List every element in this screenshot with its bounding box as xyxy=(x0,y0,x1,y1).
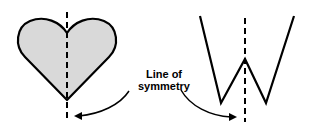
arrow-to-heart-line xyxy=(79,91,129,116)
label-line-2: symmetry xyxy=(134,80,194,92)
w-shape xyxy=(200,16,294,103)
arrowhead-left xyxy=(74,112,82,120)
diagram-graphics xyxy=(0,0,309,129)
arrowhead-right xyxy=(229,113,237,121)
symmetry-diagram: Line of symmetry xyxy=(0,0,309,129)
arrow-to-w-line xyxy=(181,90,231,117)
label-line-1: Line of xyxy=(134,68,194,80)
symmetry-label: Line of symmetry xyxy=(134,68,194,92)
